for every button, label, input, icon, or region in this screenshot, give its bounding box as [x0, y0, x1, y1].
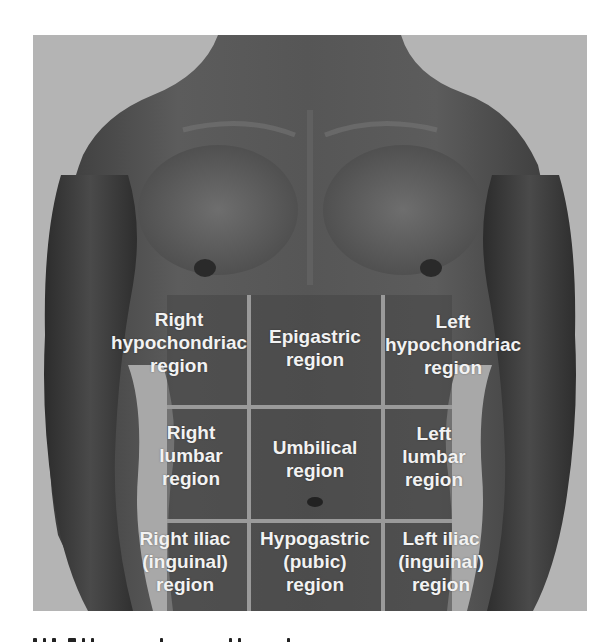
label-epigastric-region: Epigastric region	[269, 325, 361, 371]
grid-horizontal-line-lower	[167, 519, 452, 523]
label-hypogastric-pubic-region: Hypogastric (pubic) region	[260, 527, 370, 596]
grid-horizontal-line-upper	[167, 405, 452, 409]
label-right-iliac-inguinal-region: Right iliac (inguinal) region	[140, 527, 231, 596]
abdominal-regions-figure: Right hypochondriac region Epigastric re…	[33, 35, 587, 611]
grid-vertical-line-left	[247, 295, 251, 611]
label-left-iliac-inguinal-region: Left iliac (inguinal) region	[398, 527, 483, 596]
label-right-hypochondriac-region: Right hypochondriac region	[111, 308, 247, 377]
label-umbilical-region: Umbilical region	[273, 436, 357, 482]
figure-caption-truncated	[33, 636, 593, 642]
label-left-lumbar-region: Left lumbar region	[402, 422, 465, 491]
label-left-hypochondriac-region: Left hypochondriac region	[385, 310, 521, 379]
label-right-lumbar-region: Right lumbar region	[159, 421, 222, 490]
